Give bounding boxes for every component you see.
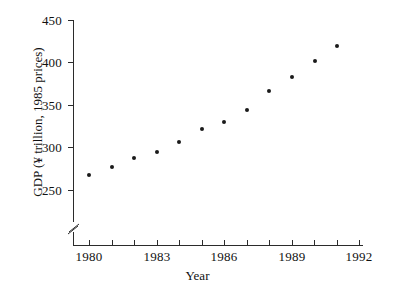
data-point <box>245 108 249 112</box>
data-point <box>177 140 181 144</box>
data-point <box>267 89 271 93</box>
plot-area <box>0 0 395 295</box>
data-point <box>87 173 91 177</box>
data-point <box>222 120 226 124</box>
data-point <box>110 165 114 169</box>
data-point <box>335 44 339 48</box>
chart-figure: 450 400 350 300 250 1980 1983 1986 1989 … <box>0 0 395 295</box>
data-point <box>200 127 204 131</box>
data-point <box>155 150 159 154</box>
data-point <box>132 156 136 160</box>
data-point <box>290 75 294 79</box>
data-point <box>313 59 317 63</box>
